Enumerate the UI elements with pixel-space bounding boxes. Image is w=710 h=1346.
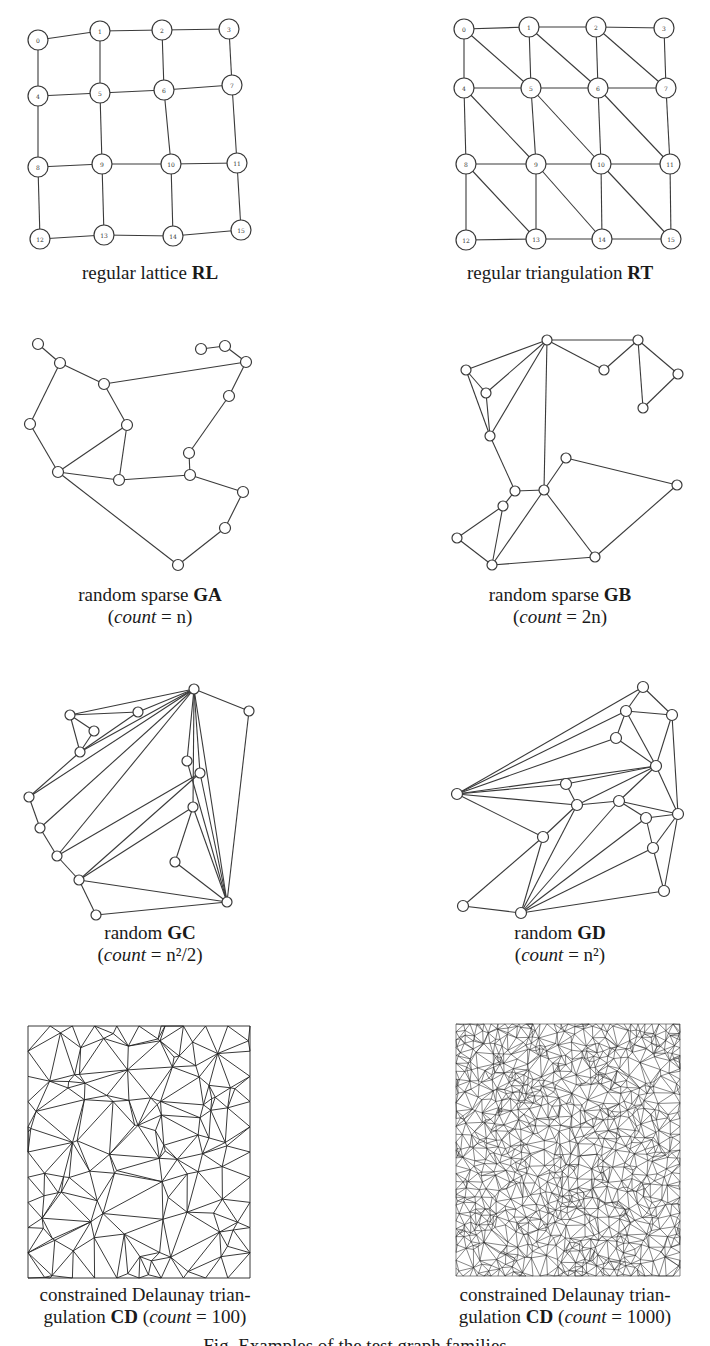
- graph-node: [452, 789, 463, 800]
- caption-cd100: constrained Delaunay trian- gulation CD …: [0, 1284, 290, 1328]
- svg-text:10: 10: [167, 161, 175, 168]
- panel-random-sparse-ga: [0, 300, 300, 600]
- svg-text:1: 1: [527, 24, 531, 31]
- graph-node: [599, 365, 609, 375]
- svg-text:3: 3: [227, 26, 231, 33]
- svg-text:8: 8: [464, 161, 468, 168]
- svg-text:14: 14: [598, 236, 606, 243]
- svg-text:15: 15: [667, 236, 675, 243]
- caption-rl: regular lattice RL: [0, 262, 300, 284]
- svg-text:7: 7: [230, 82, 234, 89]
- graph-node: [561, 779, 572, 790]
- graph-node: [65, 710, 75, 720]
- svg-text:13: 13: [100, 232, 108, 239]
- graph-node: [485, 431, 495, 441]
- graph-node: [189, 684, 199, 694]
- svg-text:4: 4: [36, 93, 40, 100]
- caption-ga: random sparse GA (count = n): [0, 584, 300, 628]
- svg-text:11: 11: [233, 160, 241, 167]
- graph-node: [188, 802, 198, 812]
- graph-node: [510, 486, 520, 496]
- svg-text:13: 13: [532, 236, 540, 243]
- graph-node: [590, 552, 600, 562]
- svg-text:6: 6: [596, 85, 600, 92]
- svg-text:0: 0: [462, 26, 466, 33]
- graph-node: [461, 365, 471, 375]
- graph-node: [633, 335, 643, 345]
- panel-regular-lattice: 0123456789101112131415: [0, 0, 300, 300]
- graph-node: [641, 813, 652, 824]
- panel-delaunay-1000: [400, 960, 710, 1290]
- graph-node: [52, 851, 62, 861]
- svg-text:5: 5: [529, 85, 533, 92]
- lattice-graph: 0123456789101112131415: [0, 0, 300, 300]
- svg-text:5: 5: [98, 90, 102, 97]
- graph-node: [667, 710, 678, 721]
- graph-node: [89, 726, 99, 736]
- svg-text:12: 12: [462, 237, 470, 244]
- graph-node: [182, 756, 192, 766]
- delaunay-100-mesh: [0, 960, 300, 1290]
- graph-node: [170, 857, 180, 867]
- graph-node: [122, 420, 133, 431]
- svg-text:0: 0: [36, 37, 40, 44]
- graph-node: [238, 487, 249, 498]
- panel-random-sparse-gb: [400, 300, 710, 600]
- graph-node: [561, 453, 571, 463]
- triangulation-graph: 0123456789101112131415: [400, 0, 710, 300]
- gb-graph: [400, 300, 710, 600]
- graph-node: [611, 733, 622, 744]
- panel-random-gc: [0, 640, 300, 940]
- svg-text:9: 9: [100, 161, 104, 168]
- graph-node: [241, 357, 252, 368]
- graph-node: [99, 379, 110, 390]
- graph-node: [614, 796, 625, 807]
- caption-rt: regular triangulation RT: [410, 262, 710, 284]
- graph-node: [24, 792, 34, 802]
- graph-node: [638, 682, 649, 693]
- svg-text:11: 11: [666, 161, 674, 168]
- caption-cd1000: constrained Delaunay trian- gulation CD …: [420, 1284, 710, 1328]
- svg-text:1: 1: [98, 28, 102, 35]
- svg-text:6: 6: [162, 87, 166, 94]
- graph-node: [572, 800, 583, 811]
- graph-node: [114, 475, 125, 486]
- graph-node: [516, 908, 527, 919]
- graph-node: [195, 768, 205, 778]
- graph-node: [452, 533, 462, 543]
- graph-node: [458, 901, 469, 912]
- svg-text:2: 2: [160, 27, 164, 34]
- graph-node: [55, 358, 66, 369]
- graph-node: [673, 369, 683, 379]
- graph-node: [196, 344, 207, 355]
- svg-text:4: 4: [462, 85, 466, 92]
- graph-node: [222, 897, 232, 907]
- graph-node: [638, 403, 648, 413]
- graph-node: [621, 706, 632, 717]
- delaunay-1000-mesh: [400, 960, 710, 1290]
- svg-text:3: 3: [662, 25, 666, 32]
- graph-node: [648, 843, 659, 854]
- graph-node: [651, 761, 662, 772]
- graph-node: [25, 419, 36, 430]
- graph-node: [672, 480, 682, 490]
- graph-node: [184, 448, 195, 459]
- graph-node: [481, 388, 491, 398]
- graph-node: [91, 910, 101, 920]
- graph-node: [673, 809, 684, 820]
- graph-node: [75, 747, 85, 757]
- graph-node: [538, 832, 549, 843]
- graph-node: [539, 485, 549, 495]
- figure-caption: Fig. Examples of the test graph families: [0, 1334, 710, 1346]
- graph-node: [173, 560, 184, 571]
- svg-text:15: 15: [237, 227, 245, 234]
- panel-delaunay-100: [0, 960, 300, 1290]
- svg-text:7: 7: [664, 85, 668, 92]
- svg-text:14: 14: [169, 233, 177, 240]
- svg-text:12: 12: [36, 236, 44, 243]
- svg-text:10: 10: [597, 161, 605, 168]
- panel-regular-triangulation: 0123456789101112131415: [400, 0, 710, 300]
- graph-node: [220, 341, 231, 352]
- graph-node: [53, 467, 64, 478]
- graph-node: [133, 707, 143, 717]
